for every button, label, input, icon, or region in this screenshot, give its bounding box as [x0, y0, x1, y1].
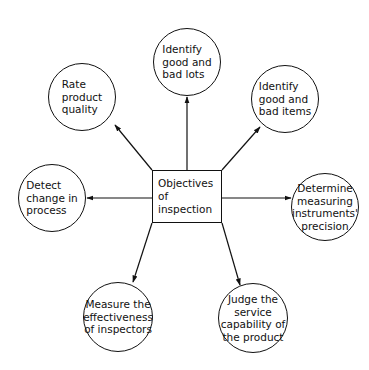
objective-label: Determine measuring instruments' precisi…: [292, 182, 358, 232]
center-label: Objectives of inspection: [158, 177, 221, 216]
objective-node-service-capability: Judge the service capability of the prod…: [218, 283, 288, 353]
objective-node-inspector-effectiveness: Measure the effectiveness of inspectors: [83, 282, 153, 352]
arrow-to-inspector-effectiveness: [133, 223, 152, 282]
objective-node-good-bad-items: Identify good and bad items: [251, 65, 319, 133]
objective-node-good-bad-lots: Identify good and bad lots: [153, 28, 221, 96]
arrow-to-service-capability: [222, 223, 240, 285]
objective-node-instrument-precision: Determine measuring instruments' precisi…: [291, 173, 359, 241]
objective-label: Measure the effectiveness of inspectors: [83, 298, 153, 336]
center-box-objectives-of-inspection: Objectives of inspection: [152, 170, 222, 223]
objective-label: Rate product quality: [62, 78, 102, 116]
objective-label: Detect change in process: [26, 179, 78, 217]
objective-node-rate-quality: Rate product quality: [48, 63, 116, 131]
objective-node-detect-change: Detect change in process: [18, 164, 86, 232]
objective-label: Identify good and bad items: [259, 80, 311, 118]
arrow-to-rate-quality: [115, 125, 152, 170]
arrow-to-good-bad-items: [222, 127, 260, 170]
objective-label: Identify good and bad lots: [162, 43, 211, 81]
objective-label: Judge the service capability of the prod…: [221, 293, 286, 343]
